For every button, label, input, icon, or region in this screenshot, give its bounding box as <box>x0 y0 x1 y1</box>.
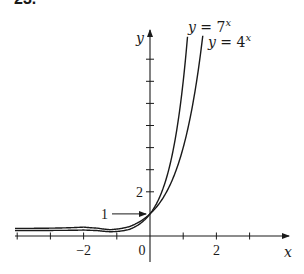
annotation-label: 1 <box>101 207 108 222</box>
curve-7-pow-x <box>15 37 188 232</box>
x-tick-label: −2 <box>76 243 91 258</box>
x-tick-label: 2 <box>213 243 220 258</box>
y-tick-label: 2 <box>136 185 143 200</box>
problem-number: 23. <box>14 0 36 7</box>
y-axis-label: y <box>135 30 145 46</box>
exponential-graph: 23. −2022xy1y = 7xy = 4x <box>0 0 304 274</box>
x-tick-label: 0 <box>139 243 146 258</box>
axes <box>15 30 289 262</box>
series-label: y = 4x <box>207 32 251 50</box>
curves <box>15 36 203 232</box>
labels: −2022xy1y = 7xy = 4x <box>76 17 292 260</box>
series-label: y = 7x <box>187 17 231 35</box>
x-axis-label: x <box>284 244 292 260</box>
curve-4-pow-x <box>15 36 203 230</box>
